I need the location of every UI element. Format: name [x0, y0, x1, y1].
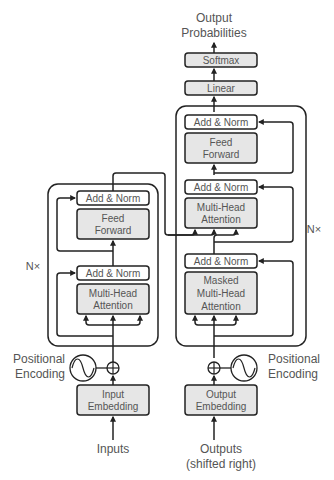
svg-text:Add & Norm: Add & Norm — [194, 117, 248, 128]
decoder-masked-multi-head-attention[interactable]: Masked Multi-Head Attention — [185, 272, 257, 314]
encoder-feed-forward[interactable]: Feed Forward — [77, 209, 149, 239]
decoder-positional-label-1: Positional — [268, 352, 320, 366]
arrow-icon — [86, 316, 113, 325]
svg-text:Add & Norm: Add & Norm — [194, 256, 248, 267]
svg-text:Input: Input — [102, 389, 124, 400]
encoder-positional-label-2: Encoding — [15, 367, 65, 381]
arrow-icon — [195, 316, 214, 325]
inputs-label: Inputs — [97, 442, 130, 456]
svg-text:Add & Norm: Add & Norm — [86, 268, 140, 279]
output-probabilities-label-2: Probabilities — [181, 26, 246, 40]
svg-text:Forward: Forward — [203, 149, 240, 160]
outputs-label-2: (shifted right) — [186, 457, 256, 471]
svg-text:Forward: Forward — [95, 225, 132, 236]
softmax-label: Softmax — [203, 55, 240, 66]
arrow-icon — [113, 316, 140, 325]
decoder-positional-label-2: Encoding — [268, 367, 318, 381]
arrow-icon — [168, 230, 195, 235]
output-embedding-box[interactable]: Output Embedding — [185, 385, 257, 415]
encoder-multi-head-attention[interactable]: Multi-Head Attention — [77, 284, 149, 314]
sine-wave-icon — [70, 355, 96, 381]
decoder-add-norm-top[interactable]: Add & Norm — [185, 115, 257, 129]
encoder: Add & Norm Feed Forward Add & Norm Multi… — [13, 173, 214, 456]
encoder-repeat-label: N× — [26, 260, 40, 272]
decoder-add-norm-bottom[interactable]: Add & Norm — [185, 254, 257, 268]
encoder-add-norm-bottom[interactable]: Add & Norm — [77, 266, 149, 280]
svg-text:Embedding: Embedding — [88, 401, 139, 412]
svg-text:Multi-Head: Multi-Head — [89, 288, 137, 299]
arrow-icon — [214, 316, 236, 325]
arrow-icon — [195, 230, 214, 235]
svg-text:Attention: Attention — [201, 301, 240, 312]
encoder-add-norm-top[interactable]: Add & Norm — [77, 191, 149, 205]
svg-text:Feed: Feed — [210, 137, 233, 148]
svg-text:Attention: Attention — [93, 300, 132, 311]
encoder-positional-label-1: Positional — [13, 352, 65, 366]
decoder-add-norm-mid[interactable]: Add & Norm — [185, 180, 257, 194]
linear-label: Linear — [207, 83, 235, 94]
svg-text:Output: Output — [206, 389, 236, 400]
svg-text:Add & Norm: Add & Norm — [86, 193, 140, 204]
svg-text:Multi-Head: Multi-Head — [197, 288, 245, 299]
svg-text:Masked: Masked — [203, 275, 238, 286]
svg-text:Multi-Head: Multi-Head — [197, 202, 245, 213]
outputs-label-1: Outputs — [200, 442, 242, 456]
input-embedding-box[interactable]: Input Embedding — [77, 385, 149, 415]
svg-text:Embedding: Embedding — [196, 401, 247, 412]
linear-box[interactable]: Linear — [185, 81, 257, 95]
decoder-repeat-label: N× — [307, 223, 321, 235]
svg-text:Attention: Attention — [201, 214, 240, 225]
decoder-multi-head-attention[interactable]: Multi-Head Attention — [185, 198, 257, 228]
decoder: Output Probabilities Softmax Linear Add … — [176, 11, 321, 471]
transformer-diagram: Output Probabilities Softmax Linear Add … — [0, 0, 334, 480]
softmax-box[interactable]: Softmax — [185, 53, 257, 67]
decoder-feed-forward[interactable]: Feed Forward — [185, 133, 257, 163]
svg-text:Feed: Feed — [102, 213, 125, 224]
sine-wave-icon — [231, 355, 257, 381]
svg-text:Add & Norm: Add & Norm — [194, 182, 248, 193]
output-probabilities-label-1: Output — [196, 11, 233, 25]
